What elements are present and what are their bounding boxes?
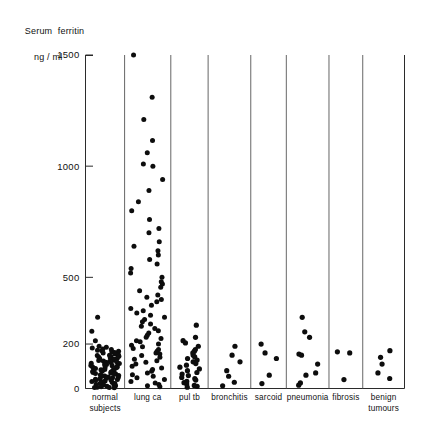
data-point xyxy=(387,348,392,353)
data-point xyxy=(155,293,160,298)
data-point xyxy=(224,368,229,373)
data-point xyxy=(379,361,384,366)
data-point xyxy=(156,342,161,347)
data-point xyxy=(335,349,340,354)
data-point xyxy=(149,303,154,308)
data-point xyxy=(129,266,134,271)
data-point xyxy=(195,384,200,389)
data-point xyxy=(128,379,133,384)
data-point xyxy=(185,356,190,361)
data-point xyxy=(148,313,153,318)
data-point xyxy=(274,356,279,361)
data-point xyxy=(95,315,100,320)
data-point xyxy=(134,375,139,380)
data-point xyxy=(150,95,155,100)
data-point xyxy=(130,364,135,369)
data-point xyxy=(307,335,312,340)
data-point xyxy=(134,310,139,315)
y-tick-label: 500 xyxy=(63,272,80,283)
data-point xyxy=(299,353,304,358)
data-point xyxy=(141,161,146,166)
data-point xyxy=(145,383,150,388)
data-point xyxy=(193,335,198,340)
data-point xyxy=(93,338,98,343)
data-point xyxy=(141,117,146,122)
data-point xyxy=(162,377,167,382)
data-point xyxy=(140,319,145,324)
data-point xyxy=(300,315,305,320)
data-point xyxy=(158,285,163,290)
data-point xyxy=(157,384,162,389)
data-point xyxy=(193,377,198,382)
data-point xyxy=(156,226,161,231)
data-point xyxy=(185,385,190,390)
data-point xyxy=(147,217,152,222)
data-point xyxy=(101,350,106,355)
data-point xyxy=(144,295,149,300)
data-point xyxy=(347,350,352,355)
data-point xyxy=(232,344,237,349)
y-tick-label: 1000 xyxy=(57,161,79,172)
data-point xyxy=(140,344,145,349)
data-point xyxy=(177,365,182,370)
y-tick-label: 200 xyxy=(63,338,80,349)
data-point xyxy=(229,353,234,358)
data-point xyxy=(303,373,308,378)
data-point xyxy=(341,377,346,382)
category-label: lung ca xyxy=(134,393,162,402)
data-point xyxy=(387,376,392,381)
data-point xyxy=(131,244,136,249)
data-point xyxy=(144,335,149,340)
data-point xyxy=(139,324,144,329)
data-point xyxy=(186,373,191,378)
data-point xyxy=(157,239,162,244)
data-point xyxy=(193,361,198,366)
data-point xyxy=(160,177,165,182)
category-label: subjects xyxy=(89,404,120,413)
category-label: pneumonia xyxy=(287,393,329,402)
data-point xyxy=(92,385,97,390)
data-point xyxy=(226,374,231,379)
data-point xyxy=(146,188,151,193)
data-point xyxy=(232,380,237,385)
data-point xyxy=(194,323,199,328)
category-label: sarcoid xyxy=(255,393,283,402)
data-point xyxy=(375,370,380,375)
scatter-plot: 020050010001500 normalsubjectslung capul… xyxy=(0,0,422,443)
data-point xyxy=(136,199,141,204)
data-point xyxy=(139,353,144,358)
data-point xyxy=(128,306,133,311)
category-label: bronchitis xyxy=(211,393,248,402)
data-point xyxy=(129,208,134,213)
data-point xyxy=(89,329,94,334)
data-point xyxy=(112,385,117,390)
data-point xyxy=(131,53,136,58)
data-point xyxy=(185,368,190,373)
data-point xyxy=(151,374,156,379)
category-label: fibrosis xyxy=(332,393,359,402)
data-point xyxy=(132,357,137,362)
data-point xyxy=(154,299,159,304)
y-tick-label: 0 xyxy=(74,383,80,394)
data-point xyxy=(146,230,151,235)
data-point xyxy=(150,164,155,169)
figure-container: Serum ferritin ng / ml 020050010001500 n… xyxy=(0,0,422,443)
data-point xyxy=(267,373,272,378)
data-point xyxy=(155,261,160,266)
data-point xyxy=(96,358,101,363)
data-point xyxy=(315,361,320,366)
data-point xyxy=(156,328,161,333)
data-point xyxy=(138,339,143,344)
data-point xyxy=(220,383,225,388)
category-label: normal xyxy=(92,393,118,402)
y-tick-label: 1500 xyxy=(57,49,79,60)
category-label-group: normalsubjectslung capul tbbronchitissar… xyxy=(89,393,399,413)
data-point xyxy=(137,288,142,293)
data-point xyxy=(179,375,184,380)
category-label: benign xyxy=(371,393,397,402)
data-point xyxy=(159,297,164,302)
data-point xyxy=(147,257,152,262)
data-point-group xyxy=(88,53,392,391)
data-point xyxy=(95,348,100,353)
data-point xyxy=(155,248,160,253)
